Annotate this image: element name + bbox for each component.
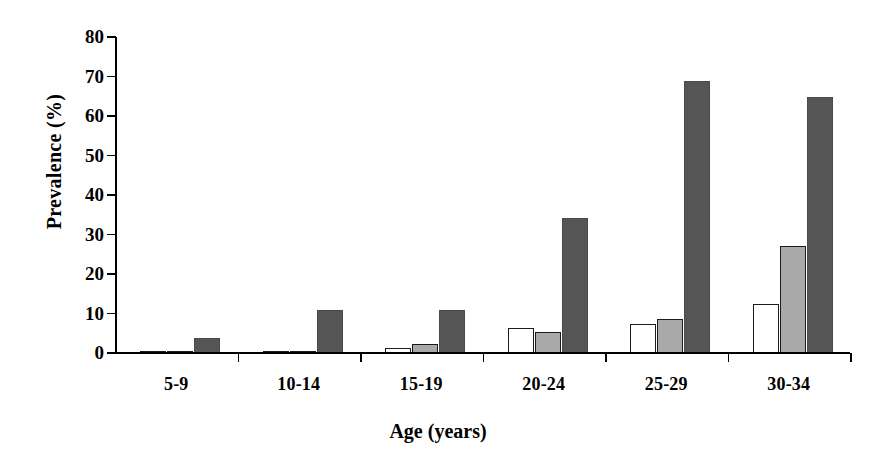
y-axis-tick-label: 80: [52, 27, 104, 46]
x-axis-tick: [238, 353, 240, 362]
bar-group: [508, 37, 588, 353]
y-axis-tick-label: 40: [52, 185, 104, 204]
bar-series-2-grey-30-34: [780, 246, 806, 353]
y-axis-tick-label: 60: [52, 106, 104, 125]
bar-series-2-grey-20-24: [535, 332, 561, 353]
x-axis-tick-label: 20-24: [484, 374, 604, 395]
x-axis-tick: [483, 353, 485, 362]
bar-series-1-white-20-24: [508, 328, 534, 353]
bar-group: [140, 37, 220, 353]
bar-group: [630, 37, 710, 353]
x-axis-tick-label: 15-19: [361, 374, 481, 395]
x-axis-title: Age (years): [0, 420, 876, 443]
bar-group: [753, 37, 833, 353]
bar-series-2-grey-25-29: [657, 319, 683, 353]
bar-group: [385, 37, 465, 353]
x-axis-tick: [360, 353, 362, 362]
x-axis-tick: [850, 353, 852, 362]
x-axis-tick-label: 5-9: [116, 374, 236, 395]
y-axis-tick-label: 20: [52, 264, 104, 283]
bar-series-1-white-30-34: [753, 304, 779, 353]
y-axis-tick-label: 30: [52, 225, 104, 244]
bar-series-3-dark-25-29: [684, 81, 710, 353]
x-axis-tick: [605, 353, 607, 362]
y-axis-tick-label: 10: [52, 304, 104, 323]
x-axis-tick: [728, 353, 730, 362]
bar-group: [263, 37, 343, 353]
x-axis-tick-label: 25-29: [606, 374, 726, 395]
y-axis-tick-label: 70: [52, 67, 104, 86]
bar-series-1-white-25-29: [630, 324, 656, 353]
plot-area: [115, 37, 850, 353]
bar-series-3-dark-10-14: [317, 310, 343, 353]
bar-series-3-dark-5-9: [194, 338, 220, 353]
x-axis-tick-label: 30-34: [729, 374, 849, 395]
bar-series-3-dark-15-19: [439, 310, 465, 353]
y-axis-tick-label: 50: [52, 146, 104, 165]
y-axis-tick-label: 0: [52, 343, 104, 362]
x-axis-tick-label: 10-14: [239, 374, 359, 395]
bar-chart: Prevalence (%) 01020304050607080 5-910-1…: [0, 0, 876, 475]
bar-series-3-dark-20-24: [562, 218, 588, 353]
bar-series-3-dark-30-34: [807, 97, 833, 353]
